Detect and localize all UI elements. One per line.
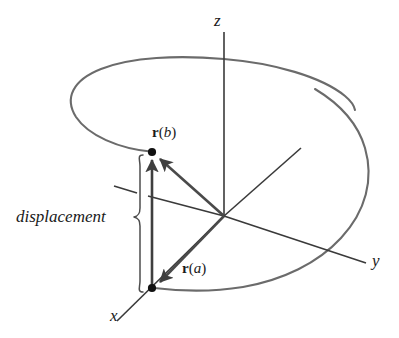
vector-r-a-symbol: r [182,260,189,276]
displacement-label: displacement [16,208,106,225]
point-r-b-marker [148,148,156,156]
vector-r-a-label: r(a) [182,261,206,276]
x-axis-negative-far [114,186,137,193]
helix-upper-loop [71,57,355,152]
vector-r-b-symbol: r [152,124,159,140]
x-axis-label: x [110,307,118,324]
y-axis-negative [224,148,301,216]
y-axis-label: y [372,252,380,269]
z-axis-label: z [214,12,221,29]
vector-diagram-figure: z y x r(b) r(a) displacement [0,0,399,338]
diagram-canvas [0,0,399,338]
helix-curve-group [71,57,369,290]
point-r-a-marker [148,284,156,292]
vector-r-b-label: r(b) [152,125,176,140]
vector-r-a-paren-close: ) [201,260,206,276]
y-axis [224,216,366,263]
displacement-brace [134,155,143,292]
vector-r-b-paren-close: ) [171,124,176,140]
